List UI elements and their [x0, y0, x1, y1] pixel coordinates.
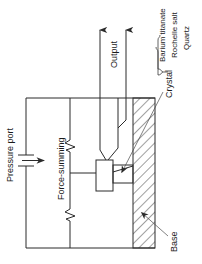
label-output: Output — [109, 40, 119, 68]
spring-symbol-top — [65, 140, 75, 152]
label-material-quartz: Quartz — [182, 26, 191, 50]
label-material-barium-titanate: Barium titanate — [158, 8, 167, 62]
label-force-summing: Force-summing — [56, 137, 66, 200]
label-base: Base — [169, 231, 179, 252]
spring-symbol-bottom — [65, 209, 75, 221]
crystal-base-hatched-region — [133, 98, 155, 248]
label-crystal: Crystal — [164, 70, 174, 98]
diagram-canvas: Pressure port Force-summing Output Cryst… — [0, 0, 202, 264]
label-pressure-port: Pressure port — [5, 127, 15, 182]
pressure-direction-arrow — [18, 155, 44, 166]
force-summing-contact-block — [96, 160, 133, 191]
label-material-rochelle-salt: Rochelle salt — [170, 11, 179, 58]
pressure-transducer-diagram: Pressure port Force-summing Output Cryst… — [0, 0, 202, 264]
